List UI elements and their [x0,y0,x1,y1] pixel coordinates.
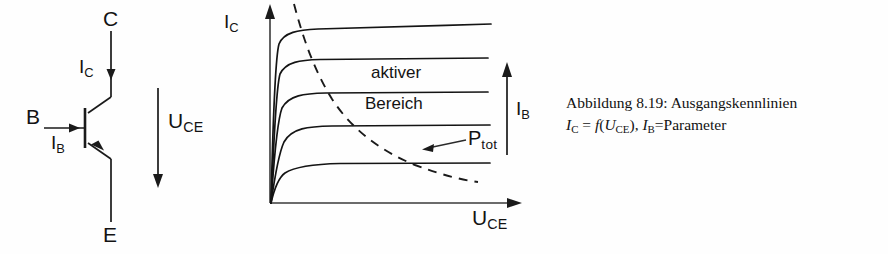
x-axis-symbol: U [472,206,487,229]
collector-slant [88,97,111,113]
uce-symbol: U [168,109,183,132]
caption-ib-subscript: B [648,123,655,135]
x-axis-label: UCE [472,207,508,228]
y-axis-label: IC [224,12,239,31]
collector-current-label: IC [79,57,94,76]
y-axis-subscript: C [229,20,239,35]
ib-parameter-label: IB [516,99,530,118]
annotation-aktiver: aktiver [371,64,421,81]
ptot-leader-line [428,140,466,148]
characteristic-curve-1 [271,163,490,203]
annotation-bereich: Bereich [365,95,423,112]
uce-voltage-label: UCE [168,110,204,131]
collector-current-subscript: C [84,65,94,80]
ptot-leader-arrowhead [422,144,434,152]
caption-ic-subscript: C [571,123,578,135]
ib-parameter-subscript: B [521,107,530,122]
ptot-symbol: P [468,127,481,149]
figure-root: C B E IC IB UCE IC UCE [0,0,888,254]
terminal-label-base: B [26,106,40,127]
characteristic-curve-5 [271,24,491,203]
collector-current-arrowhead [107,69,116,80]
ptot-subscript: tot [481,137,497,152]
caption-uce-symbol: U [604,116,615,133]
figure-caption-line-2: IC = f(UCE), IB=Parameter [566,114,726,136]
base-current-subscript: B [56,141,65,156]
x-axis-arrowhead [507,198,522,208]
terminal-label-emitter: E [103,224,117,245]
y-axis-arrowhead [265,4,275,19]
caption-uce-subscript: CE [616,123,630,135]
annotation-ptot: Ptot [468,128,497,148]
caption-ib-symbol: I [642,116,647,133]
base-current-arrowhead [69,124,80,133]
uce-subscript: CE [183,119,203,135]
x-axis-subscript: CE [487,216,507,232]
base-current-label: IB [51,133,65,152]
figure-caption-line-1: Abbildung 8.19: Ausgangskennlinien [566,92,797,114]
caption-parameter-text: =Parameter [655,116,727,133]
ib-parameter-arrowhead [502,62,512,77]
terminal-label-collector: C [103,8,118,29]
uce-arrow-head [153,174,163,188]
caption-equals: = [578,116,595,133]
